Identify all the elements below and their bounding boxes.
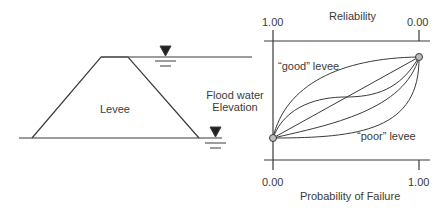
poor-levee-label: “poor” levee (357, 130, 416, 142)
water-level-marker-high (155, 46, 176, 66)
levee-outline (32, 57, 199, 138)
good-levee-label: “good” levee (278, 60, 339, 72)
water-level-triangle-icon (210, 127, 221, 137)
bottom-axis-title: Probability of Failure (300, 190, 400, 202)
end-point (416, 54, 423, 61)
origin-point (270, 135, 277, 142)
top-axis-right-tick: 0.00 (407, 16, 428, 28)
levee-label: Levee (100, 103, 130, 115)
top-axis-left-tick: 1.00 (262, 16, 283, 28)
water-level-triangle-icon (160, 46, 171, 56)
flood-water-label-line1: Flood water (205, 89, 265, 101)
top-axis-title: Reliability (329, 10, 376, 22)
chart-axes (264, 30, 430, 170)
flood-water-label: Flood water Elevation (205, 89, 265, 113)
bottom-axis-right-tick: 1.00 (408, 176, 429, 188)
bottom-axis-left-tick: 0.00 (262, 176, 283, 188)
flood-water-label-line2: Elevation (205, 101, 265, 113)
